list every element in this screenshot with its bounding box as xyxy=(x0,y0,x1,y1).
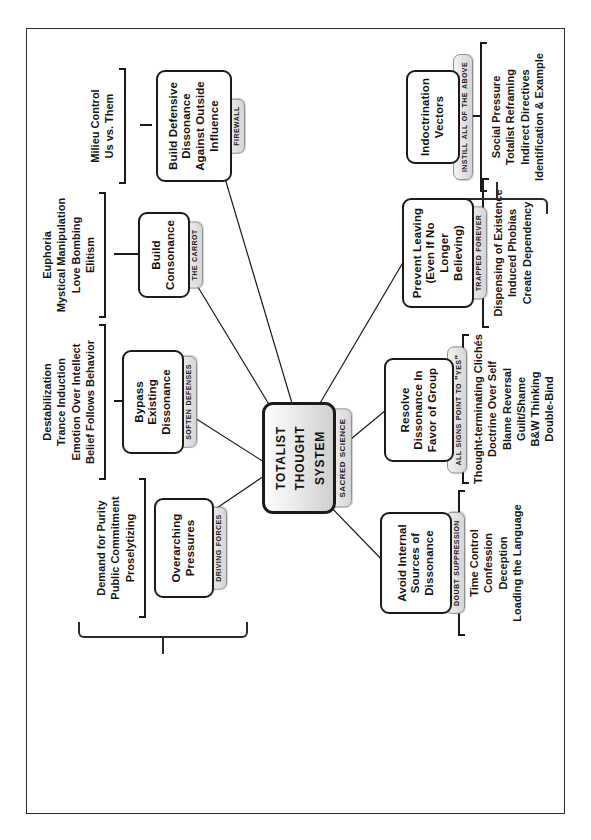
leaf-item: Loading the Language xyxy=(510,504,524,621)
leaf-item: Belief Follows Behavior xyxy=(83,340,97,464)
leaf-items: Milieu Control Us vs. Them xyxy=(88,89,119,162)
node-totalist-thought-system[interactable]: Totalist Thought System Sacred Science xyxy=(262,402,336,514)
node-prevent-leaving[interactable]: Prevent Leaving (Even If No Longer Belie… xyxy=(402,198,474,308)
leaf-items: Thought-terminating Clichés Doctrine Ove… xyxy=(469,334,557,484)
leaf-item: Demand for Purity xyxy=(94,496,108,599)
group-bracket-top-stem xyxy=(162,636,164,654)
node-avoid-internal-sources[interactable]: Avoid Internal Sources of Dissonance Dou… xyxy=(380,512,452,614)
leaf-item: Guilt/Shame xyxy=(514,334,528,484)
leaf-item: Elitism xyxy=(83,198,97,312)
leaf-item: Totalist Reframing xyxy=(503,53,517,181)
node-overarching-pressures[interactable]: Overarching Pressures Driving Forces xyxy=(154,498,214,598)
group-bracket-bottom-stem xyxy=(496,182,498,200)
leaf-list-indoctrination-vectors: Social Pressure Totalist Reframing Indir… xyxy=(480,42,546,192)
node-label: Indoctrination Vectors xyxy=(406,70,460,164)
leaf-item: Double-Bind xyxy=(542,334,556,484)
node-label: Overarching Pressures xyxy=(154,498,214,598)
leaf-item: B&W Thinking xyxy=(528,334,542,484)
node-label: Build Consonance xyxy=(138,212,190,298)
node-bypass-existing-dissonance[interactable]: Bypass Existing Dissonance Soften Defens… xyxy=(122,350,184,454)
leaf-item: Us vs. Them xyxy=(102,89,116,162)
leaf-items: Destabilization Trance Induction Emotion… xyxy=(40,340,99,464)
leaf-item: Trance Induction xyxy=(54,340,68,464)
leaf-bracket xyxy=(480,42,487,192)
leaf-items: Demand for Purity Public Commitment Pros… xyxy=(94,496,139,599)
leaf-item: Time Control xyxy=(467,504,481,621)
node-label: Avoid Internal Sources of Dissonance xyxy=(380,512,452,614)
leaf-item: Blame Reversal xyxy=(500,334,514,484)
leaf-item: Mystical Manipulation xyxy=(54,198,68,312)
leaf-item: Destabilization xyxy=(40,340,54,464)
leaf-bracket xyxy=(99,324,106,480)
leaf-list-build-defensive-dissonance: Milieu Control Us vs. Them xyxy=(88,68,126,184)
leaf-item: Love Bombing xyxy=(69,198,83,312)
node-build-defensive-dissonance[interactable]: Build Defensive Dissonance Against Outsi… xyxy=(156,70,232,182)
node-build-consonance[interactable]: Build Consonance The Carrot xyxy=(138,212,190,298)
leaf-list-overarching-pressures: Demand for Purity Public Commitment Pros… xyxy=(94,478,146,618)
leaf-item: Milieu Control xyxy=(88,89,102,162)
node-indoctrination-vectors[interactable]: Indoctrination Vectors Instill All of th… xyxy=(406,70,460,164)
node-label: Build Defensive Dissonance Against Outsi… xyxy=(156,70,232,182)
leaf-item: Confession xyxy=(481,504,495,621)
leaf-item: Doctrine Over Self xyxy=(485,334,499,484)
leaf-bracket xyxy=(139,478,146,618)
leaf-stem xyxy=(140,124,152,126)
node-resolve-dissonance[interactable]: Resolve Dissonance In Favor of Group All… xyxy=(384,358,454,462)
mindmap-canvas: Totalist Thought System Sacred Science O… xyxy=(26,28,565,814)
leaf-item: Identification & Example xyxy=(532,53,546,181)
leaf-list-resolve-dissonance: Thought-terminating Clichés Doctrine Ove… xyxy=(462,334,557,484)
leaf-item: Thought-terminating Clichés xyxy=(471,334,485,484)
node-label: Prevent Leaving (Even If No Longer Belie… xyxy=(402,198,474,308)
leaf-items: Social Pressure Totalist Reframing Indir… xyxy=(487,53,546,181)
leaf-bracket xyxy=(119,68,126,184)
leaf-bracket xyxy=(99,192,106,318)
leaf-items: Time Control Confession Deception Loadin… xyxy=(465,504,524,621)
node-label: Bypass Existing Dissonance xyxy=(122,350,184,454)
diagram-rotation-wrapper: Totalist Thought System Sacred Science O… xyxy=(26,28,565,814)
leaf-item: Euphoria xyxy=(40,198,54,312)
leaf-item: Public Commitment xyxy=(108,496,122,599)
leaf-list-bypass-existing-dissonance: Destabilization Trance Induction Emotion… xyxy=(40,324,106,480)
leaf-item: Proselytizing xyxy=(123,496,137,599)
leaf-item: Indirect Directives xyxy=(518,53,532,181)
leaf-item: Emotion Over Intellect xyxy=(69,340,83,464)
leaf-item: Social Pressure xyxy=(489,53,503,181)
leaf-item: Deception xyxy=(496,504,510,621)
leaf-list-build-consonance: Euphoria Mystical Manipulation Love Bomb… xyxy=(40,192,106,318)
node-label: Totalist Thought System xyxy=(262,402,336,514)
node-label: Resolve Dissonance In Favor of Group xyxy=(384,358,454,462)
leaf-list-avoid-internal-sources: Time Control Confession Deception Loadin… xyxy=(458,490,524,636)
leaf-items: Euphoria Mystical Manipulation Love Bomb… xyxy=(40,198,99,312)
